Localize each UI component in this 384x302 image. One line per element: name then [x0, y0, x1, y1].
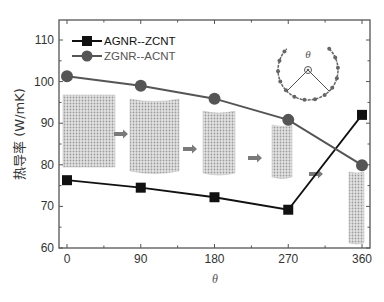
- partial-tube-image-2: [203, 111, 235, 175]
- arrow-icon: [114, 130, 128, 139]
- legend-label: AGNR--ZCNT: [104, 35, 176, 47]
- partial-tube-image-1: [130, 99, 179, 174]
- circle-marker: [356, 159, 368, 171]
- x-tick-label: 360: [352, 252, 372, 266]
- square-marker: [357, 110, 367, 120]
- circle-marker: [282, 114, 294, 126]
- square-marker: [210, 192, 220, 202]
- full-tube-image: [349, 172, 364, 244]
- circle-marker: [61, 70, 73, 82]
- legend: AGNR--ZCNTZGNR--ACNT: [72, 35, 176, 62]
- arrow-icon: [248, 154, 262, 163]
- legend-circle-marker: [82, 51, 93, 62]
- y-tick-label: 70: [41, 199, 55, 213]
- x-axis-label: θ: [212, 272, 218, 286]
- circle-marker: [209, 93, 221, 105]
- partial-tube-image-3: [272, 125, 292, 179]
- y-axis-label: 热导率 (W/mK): [12, 88, 27, 180]
- circle-marker: [135, 80, 147, 92]
- square-marker: [62, 175, 72, 185]
- theta-label: θ: [305, 48, 311, 60]
- y-tick-label: 90: [41, 116, 55, 130]
- y-tick-label: 60: [41, 241, 55, 255]
- arrow-icon: [183, 145, 197, 154]
- square-marker: [136, 183, 146, 193]
- y-tick-label: 80: [41, 158, 55, 172]
- line-chart: 60708090100110090180270360 AGNR--ZCNTZGN…: [0, 0, 384, 302]
- square-marker: [283, 205, 293, 215]
- arc-radius-left: [287, 70, 308, 91]
- theta-arc-diagram: θ: [276, 47, 340, 102]
- arc-center-dot: [307, 69, 310, 72]
- y-tick-label: 100: [34, 75, 54, 89]
- x-tick-label: 90: [134, 252, 148, 266]
- x-tick-label: 180: [204, 252, 224, 266]
- flat-ribbon-image: [63, 95, 115, 167]
- arc-radius-right: [308, 70, 329, 91]
- x-tick-label: 0: [64, 252, 71, 266]
- y-tick-label: 110: [35, 33, 54, 47]
- legend-label: ZGNR--ACNT: [104, 50, 176, 62]
- legend-square-marker: [82, 36, 92, 46]
- x-tick-label: 270: [278, 252, 298, 266]
